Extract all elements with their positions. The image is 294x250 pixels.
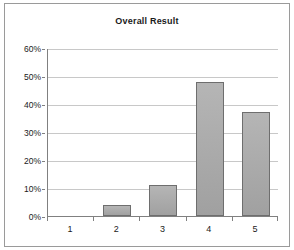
- y-axis-labels: 0%10%20%30%40%50%60%: [5, 49, 45, 217]
- x-axis-tick-mark: [232, 217, 233, 221]
- bar-slot: [48, 49, 94, 216]
- y-axis-tick-mark: [42, 189, 45, 190]
- x-axis-tick-mark: [186, 217, 187, 221]
- bar-slot: [140, 49, 186, 216]
- x-axis-tick-mark: [93, 217, 94, 221]
- x-axis-tick-label: 4: [206, 224, 211, 234]
- y-axis-tick-label: 40%: [24, 100, 41, 110]
- bar[interactable]: [103, 205, 131, 216]
- bar[interactable]: [242, 112, 270, 216]
- y-axis-tick-mark: [42, 49, 45, 50]
- bar[interactable]: [196, 82, 224, 216]
- x-axis-tick-mark: [47, 217, 48, 221]
- y-axis-tick-label: 30%: [24, 128, 41, 138]
- y-axis-tick-label: 0%: [29, 212, 41, 222]
- y-axis-tick-label: 50%: [24, 72, 41, 82]
- x-axis-tick-label: 5: [252, 224, 257, 234]
- chart-frame: Overall Result 0%10%20%30%40%50%60% 1234…: [4, 3, 290, 247]
- bar-series: [48, 49, 278, 216]
- y-axis-tick-label: 60%: [24, 44, 41, 54]
- y-axis-tick-mark: [42, 133, 45, 134]
- x-axis-tick-mark: [139, 217, 140, 221]
- y-axis-tick-mark: [42, 161, 45, 162]
- x-axis-tick-label: 1: [68, 224, 73, 234]
- bar[interactable]: [149, 185, 177, 216]
- bar-slot: [187, 49, 233, 216]
- chart-screenshot: Overall Result 0%10%20%30%40%50%60% 1234…: [0, 0, 294, 250]
- y-axis-tick-label: 20%: [24, 156, 41, 166]
- x-axis-tick-label: 3: [160, 224, 165, 234]
- y-axis-tick-mark: [42, 105, 45, 106]
- y-axis-tick-mark: [42, 77, 45, 78]
- bar-slot: [94, 49, 140, 216]
- x-axis-labels: 12345: [47, 224, 278, 240]
- x-axis-tick-mark: [277, 217, 278, 221]
- x-axis-ticks: [47, 217, 278, 222]
- y-axis-tick-mark: [42, 217, 45, 218]
- bar-slot: [233, 49, 279, 216]
- plot-area: [47, 49, 278, 217]
- x-axis-tick-label: 2: [114, 224, 119, 234]
- chart-title: Overall Result: [5, 16, 289, 26]
- y-axis-tick-label: 10%: [24, 184, 41, 194]
